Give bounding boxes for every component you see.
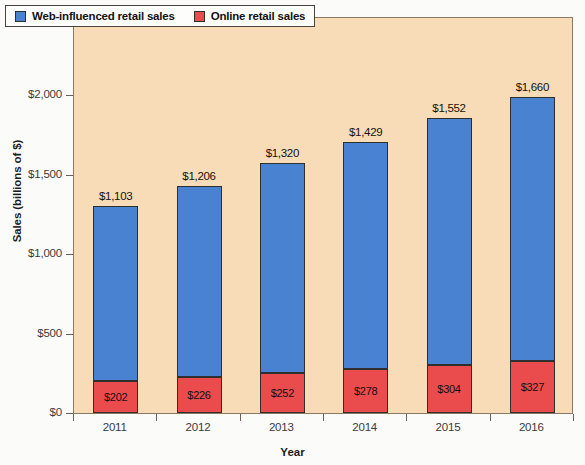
bar-value-label-online: $226	[178, 389, 221, 401]
bar-segment-web-influenced	[177, 186, 222, 378]
x-tick-mark	[406, 414, 407, 421]
y-tick-mark	[66, 175, 73, 176]
legend-swatch-icon	[15, 11, 26, 22]
bar-segment-web-influenced	[260, 163, 305, 373]
bar-value-label-online: $202	[94, 391, 137, 403]
x-tick-label: 2011	[73, 421, 156, 433]
bar-value-label-online: $278	[344, 385, 387, 397]
bar-stack: $226$1,206	[177, 186, 222, 413]
y-tick-label: $1,500	[28, 168, 62, 180]
bar-segment-web-influenced	[427, 118, 472, 364]
bar-value-label-web-influenced: $1,552	[418, 102, 481, 114]
x-tick-mark	[73, 414, 74, 421]
bar-segment-online: $202	[93, 381, 138, 413]
legend-swatch-icon	[194, 11, 205, 22]
chart-legend: Web-influenced retail salesOnline retail…	[5, 5, 315, 27]
bar-value-label-web-influenced: $1,320	[251, 147, 314, 159]
y-tick-mark	[66, 254, 73, 255]
bar-value-label-web-influenced: $1,429	[334, 126, 397, 138]
legend-label: Web-influenced retail sales	[32, 10, 175, 22]
bar-stack: $304$1,552	[427, 118, 472, 413]
y-tick-label: $0	[50, 406, 62, 418]
bar-segment-online: $252	[260, 373, 305, 413]
x-tick-mark	[240, 414, 241, 421]
y-tick-label: $500	[37, 327, 62, 339]
x-tick-mark	[323, 414, 324, 421]
plot-area: $202$1,103$226$1,206$252$1,320$278$1,429…	[73, 17, 573, 414]
y-tick-mark	[66, 95, 73, 96]
bar-segment-web-influenced	[510, 97, 555, 361]
x-tick-mark	[490, 414, 491, 421]
x-tick-label: 2016	[490, 421, 573, 433]
x-tick-label: 2012	[156, 421, 239, 433]
y-axis-title: Sales (billions of $)	[11, 111, 23, 271]
bar-stack: $278$1,429	[343, 142, 388, 413]
bar-value-label-online: $252	[261, 387, 304, 399]
x-tick-label: 2013	[240, 421, 323, 433]
bar-segment-online: $278	[343, 369, 388, 413]
legend-entry: Web-influenced retail sales	[15, 10, 175, 22]
bar-segment-web-influenced	[93, 206, 138, 381]
bar-value-label-web-influenced: $1,103	[84, 190, 147, 202]
bar-segment-online: $304	[427, 365, 472, 413]
x-axis-title: Year	[0, 446, 585, 458]
bar-segment-web-influenced	[343, 142, 388, 369]
bar-value-label-web-influenced: $1,206	[168, 170, 231, 182]
x-tick-label: 2015	[406, 421, 489, 433]
bar-stack: $327$1,660	[510, 97, 555, 413]
bar-value-label-web-influenced: $1,660	[501, 81, 564, 93]
x-tick-mark	[156, 414, 157, 421]
bar-segment-online: $327	[510, 361, 555, 413]
chart-figure: Sales (billions of $) $0$500$1,000$1,500…	[0, 0, 585, 465]
x-tick-mark	[573, 414, 574, 421]
y-tick-mark	[66, 334, 73, 335]
bar-stack: $252$1,320	[260, 163, 305, 413]
bar-value-label-online: $327	[511, 381, 554, 393]
bar-segment-online: $226	[177, 377, 222, 413]
x-tick-label: 2014	[323, 421, 406, 433]
y-tick-label: $1,000	[28, 247, 62, 259]
bar-value-label-online: $304	[428, 383, 471, 395]
y-tick-mark	[66, 413, 73, 414]
y-tick-label: $2,000	[28, 88, 62, 100]
bar-stack: $202$1,103	[93, 206, 138, 413]
legend-entry: Online retail sales	[194, 10, 306, 22]
legend-label: Online retail sales	[211, 10, 306, 22]
